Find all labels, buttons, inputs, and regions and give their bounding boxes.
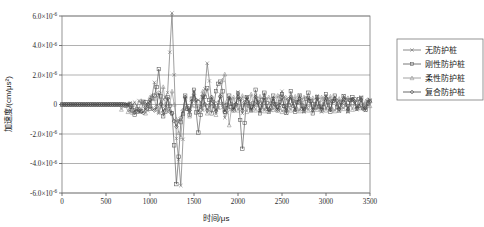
legend: 无防护桩刚性防护桩柔性防护桩复合防护桩: [397, 39, 483, 100]
x-tick-label: 2500: [275, 198, 290, 206]
legend-label: 无防护桩: [425, 45, 457, 55]
x-tick-label: 1500: [187, 198, 202, 206]
y-axis-label: 加速度/(cm/μs²): [3, 76, 13, 132]
x-tick-label: 1000: [143, 198, 158, 206]
x-tick-label: 2000: [231, 198, 246, 206]
legend-label: 柔性防护桩: [425, 73, 465, 83]
legend-label: 刚性防护桩: [425, 59, 465, 69]
y-tick-label: 0: [53, 101, 57, 109]
x-tick-label: 0: [60, 198, 64, 206]
legend-label: 复合防护桩: [425, 87, 465, 97]
acceleration-time-chart: -6.0×10-6-4.0×10-6-2.0×10-602.0×10-64.0×…: [0, 0, 484, 227]
x-tick-label: 500: [101, 198, 112, 206]
x-tick-label: 3500: [363, 198, 378, 206]
x-axis-label: 时间/μs: [203, 213, 230, 223]
x-tick-label: 3000: [319, 198, 334, 206]
